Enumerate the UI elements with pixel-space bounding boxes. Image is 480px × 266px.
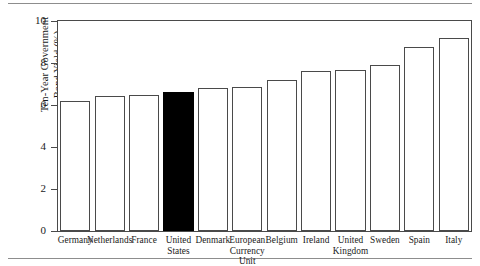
bar-denmark (198, 88, 228, 231)
y-tick-mark (51, 231, 58, 232)
bar-european-currency-unit (232, 87, 262, 231)
y-tick-label: 4 (22, 141, 46, 152)
bar-germany (60, 101, 90, 231)
bar-united-states (163, 92, 193, 231)
category-label-line: States (150, 246, 206, 257)
y-tick-label: 0 (22, 225, 46, 236)
category-label-line: Kingdom (322, 246, 378, 257)
figure-container: Ten-Year Government Bond Yield (%) 02468… (0, 0, 480, 266)
y-tick-mark (51, 189, 58, 190)
category-label: Italy (426, 235, 480, 246)
y-tick-label: 10 (22, 15, 46, 26)
y-tick-mark (51, 63, 58, 64)
top-rule (8, 3, 472, 4)
bar-sweden (370, 65, 400, 231)
bar-united-kingdom (335, 70, 365, 231)
bar-italy (439, 38, 469, 231)
bar-france (129, 95, 159, 232)
bar-series (58, 21, 471, 231)
y-tick-label: 8 (22, 57, 46, 68)
category-label-line: Italy (426, 235, 480, 246)
y-tick-label: 2 (22, 183, 46, 194)
bar-spain (404, 47, 434, 231)
y-tick-mark (51, 147, 58, 148)
y-tick-label: 6 (22, 99, 46, 110)
bar-belgium (267, 80, 297, 231)
category-label-line: Unit (219, 256, 275, 266)
bar-ireland (301, 71, 331, 231)
y-tick-mark (51, 21, 58, 22)
y-tick-mark (51, 105, 58, 106)
category-label-line: Currency (219, 246, 275, 257)
bar-netherlands (95, 96, 125, 231)
